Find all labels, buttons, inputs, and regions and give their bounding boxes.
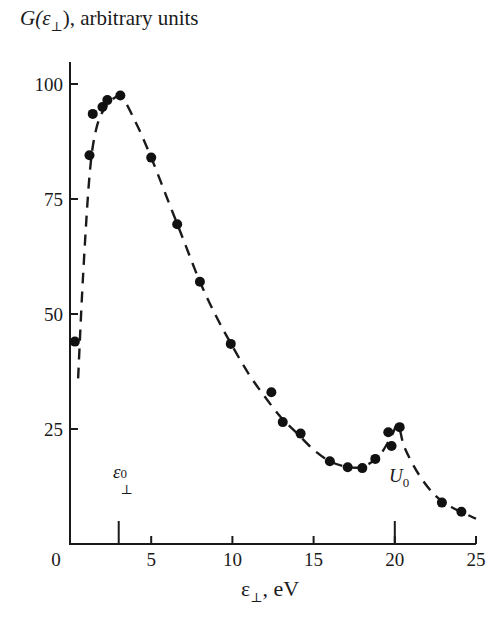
annot-u-main: U [389, 465, 403, 486]
chart-plot: 0510152025255075100 [0, 0, 501, 622]
data-point [325, 456, 335, 466]
x-tick-label: 0 [51, 549, 61, 570]
tick-labels: 0510152025255075100 [35, 74, 486, 570]
data-point [383, 427, 393, 437]
data-point [296, 429, 306, 439]
x-tick-label: 10 [223, 549, 242, 570]
data-point [266, 387, 276, 397]
x-tick-label: 15 [304, 549, 323, 570]
x-title-main: ε [241, 576, 250, 601]
annot-eps-main: ε [113, 461, 121, 482]
data-point [226, 339, 236, 349]
annot-u-sub: 0 [403, 475, 410, 490]
x-tick-label: 20 [385, 549, 404, 570]
annot-eps-sup: 0 [121, 466, 128, 482]
fit-curve [78, 96, 476, 518]
data-point [437, 498, 447, 508]
data-point [84, 150, 94, 160]
data-point [146, 153, 156, 163]
annot-eps-sub: ⊥ [121, 482, 133, 498]
data-point [102, 95, 112, 105]
data-point [70, 337, 80, 347]
y-tick-label: 75 [44, 189, 63, 210]
data-point [343, 462, 353, 472]
x-axis-title: ε⊥, eV [0, 576, 501, 606]
x-tick-label: 5 [146, 549, 156, 570]
x-tick-label: 25 [467, 549, 486, 570]
data-point [88, 109, 98, 119]
data-point [456, 507, 466, 517]
data-point [395, 422, 405, 432]
x-title-sub: ⊥ [250, 590, 262, 605]
data-point [278, 417, 288, 427]
annotation-eps0: ε0⊥ [113, 461, 131, 483]
data-point [172, 219, 182, 229]
y-tick-label: 25 [44, 419, 63, 440]
y-tick-label: 50 [44, 304, 63, 325]
data-point [357, 463, 367, 473]
x-title-rest: , eV [262, 576, 299, 601]
data-point [370, 454, 380, 464]
data-point [115, 91, 125, 101]
data-point [195, 277, 205, 287]
data-point [387, 441, 397, 451]
annotation-u0: U0 [389, 465, 409, 491]
y-tick-label: 100 [35, 74, 64, 95]
